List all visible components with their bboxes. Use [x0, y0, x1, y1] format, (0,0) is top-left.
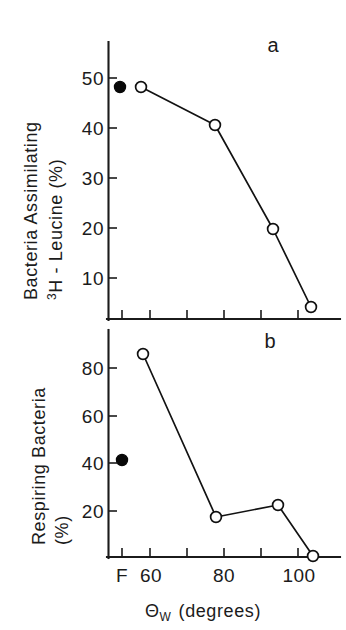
panel-label-b: b — [264, 330, 275, 352]
x-axis-title-subscript-w: W — [160, 610, 172, 624]
y-tick-label-80: 80 — [82, 358, 104, 379]
panel-b-x-minor-ticks — [122, 548, 298, 557]
y-tick-label-40: 40 — [82, 118, 104, 139]
panel-b: 80 60 40 20 b — [82, 330, 340, 561]
panel-b-y-ticks — [109, 368, 118, 511]
panel-a-data-line — [141, 87, 311, 307]
panel-b-point-60 — [138, 349, 149, 360]
panel-b-markers — [116, 349, 318, 562]
x-tick-label-80: 80 — [213, 565, 235, 586]
panel-a-x-minor-ticks — [122, 310, 298, 319]
y-tick-label-20: 20 — [82, 501, 104, 522]
y-tick-label-50: 50 — [82, 68, 104, 89]
panel-a-point-102 — [306, 302, 317, 313]
panel-b-point-F — [116, 454, 127, 465]
x-axis-title-text: ΘW(degrees) — [145, 601, 261, 624]
panel-b-y-tick-labels: 80 60 40 20 — [82, 358, 104, 522]
panel-a-y-tick-labels: 50 40 30 20 10 — [82, 68, 104, 289]
panel-a-point-92 — [268, 224, 279, 235]
panel-a-y-ticks — [109, 78, 118, 278]
y-tick-label-10: 10 — [82, 268, 104, 289]
y-tick-label-20: 20 — [82, 218, 104, 239]
panel-a-y-axis-superscript-3: 3 — [45, 293, 59, 300]
panel-b-y-axis-title: Respiring Bacteria (%) — [29, 387, 72, 545]
panel-b-y-axis-title-line1: Respiring Bacteria — [29, 387, 49, 545]
x-tick-label-F: F — [116, 565, 128, 586]
panel-a-y-axis-title-line1: Bacteria Assimilating — [21, 121, 41, 300]
x-axis-title-units: (degrees) — [179, 601, 261, 621]
panel-b-y-axis-title-line2: (%) — [52, 515, 72, 545]
panel-a-markers — [114, 81, 316, 312]
panel-a: 50 40 30 20 10 a — [82, 34, 340, 320]
panel-a-point-60 — [136, 82, 147, 93]
panel-b-point-102 — [308, 551, 319, 562]
y-tick-label-60: 60 — [82, 406, 104, 427]
panel-b-point-78 — [211, 512, 222, 523]
y-tick-label-30: 30 — [82, 168, 104, 189]
panel-label-a: a — [267, 34, 279, 56]
panel-a-point-F — [114, 81, 125, 92]
panel-a-point-78 — [210, 120, 221, 131]
panel-a-y-axis-title-line2-rest: H - Leucine (%) — [46, 159, 66, 293]
svg-text:3H - Leucine (%): 3H - Leucine (%) — [45, 159, 66, 300]
panel-b-data-line — [143, 354, 313, 556]
x-tick-label-100: 100 — [282, 565, 315, 586]
y-tick-label-40: 40 — [82, 453, 104, 474]
panel-b-point-92 — [273, 500, 284, 511]
figure-canvas: 50 40 30 20 10 a Bacteria Assimilating — [0, 0, 346, 630]
panel-a-y-axis-title: Bacteria Assimilating 3H - Leucine (%) — [21, 121, 66, 300]
x-axis-title: ΘW(degrees) — [145, 601, 261, 624]
panel-a-y-axis-title-line2: 3H - Leucine (%) — [45, 159, 66, 300]
x-tick-labels: F 60 80 100 — [116, 565, 316, 586]
x-axis-title-theta: Θ — [145, 601, 160, 621]
x-tick-label-60: 60 — [140, 565, 162, 586]
